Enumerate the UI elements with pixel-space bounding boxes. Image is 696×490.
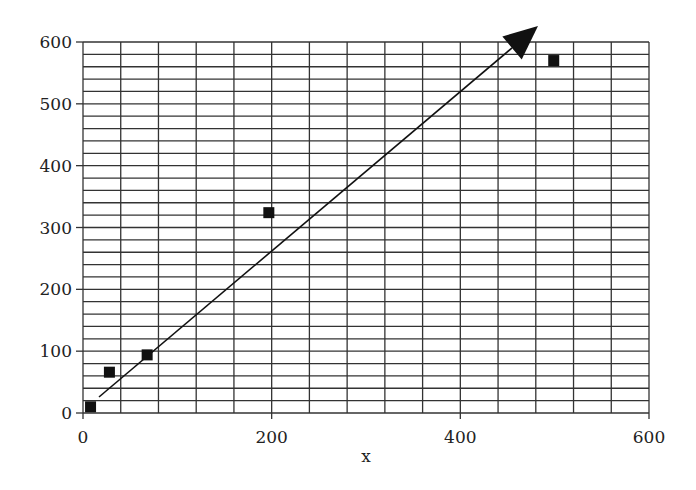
scatter-chart: 0100200300400500600 0200400600 x [0, 0, 696, 490]
trend-line [99, 48, 512, 397]
data-point-square [142, 349, 153, 360]
y-tick-label: 300 [40, 218, 72, 238]
grid-lines [83, 42, 649, 413]
data-point-square [548, 55, 559, 66]
y-tick-label: 200 [40, 279, 72, 299]
y-tick-label: 100 [40, 341, 72, 361]
x-axis-label: x [361, 446, 371, 466]
y-axis-tick-labels: 0100200300400500600 [40, 32, 72, 423]
trend-arrow [99, 26, 538, 397]
y-tick-label: 600 [40, 32, 72, 52]
axes [76, 42, 649, 419]
x-tick-label: 0 [78, 427, 89, 447]
data-points [85, 55, 559, 412]
x-axis-tick-labels: 0200400600 [78, 427, 666, 447]
data-point-square [104, 367, 115, 378]
y-tick-label: 400 [40, 156, 72, 176]
y-tick-label: 500 [40, 94, 72, 114]
x-tick-label: 600 [633, 427, 665, 447]
data-point-square [263, 207, 274, 218]
x-tick-label: 200 [255, 427, 287, 447]
x-tick-label: 400 [444, 427, 476, 447]
data-point-square [85, 401, 96, 412]
y-tick-label: 0 [61, 403, 72, 423]
